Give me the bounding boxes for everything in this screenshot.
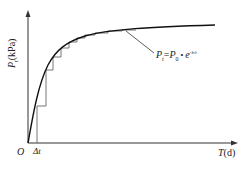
diagram-canvas <box>0 0 249 169</box>
formula-exp-power: -b/t <box>190 50 197 55</box>
formula-label: Pt=P0 • e-b/t <box>156 50 197 62</box>
origin-label: O <box>17 147 24 157</box>
step-approximation <box>37 30 136 143</box>
delta-t-label: Δt <box>33 147 41 156</box>
x-axis-arrow-icon <box>231 141 238 146</box>
y-axis-symbol: P <box>6 62 17 68</box>
x-axis-label: T(d) <box>218 148 235 158</box>
formula-leader-line <box>126 31 154 53</box>
y-axis-label: Pt(kPa) <box>6 39 19 68</box>
y-axis-arrow-icon <box>26 10 31 17</box>
y-axis-unit: (kPa) <box>6 39 17 61</box>
x-axis-unit: (d) <box>224 147 236 158</box>
pressure-curve <box>28 25 215 143</box>
y-axis-subscript: t <box>13 60 19 62</box>
